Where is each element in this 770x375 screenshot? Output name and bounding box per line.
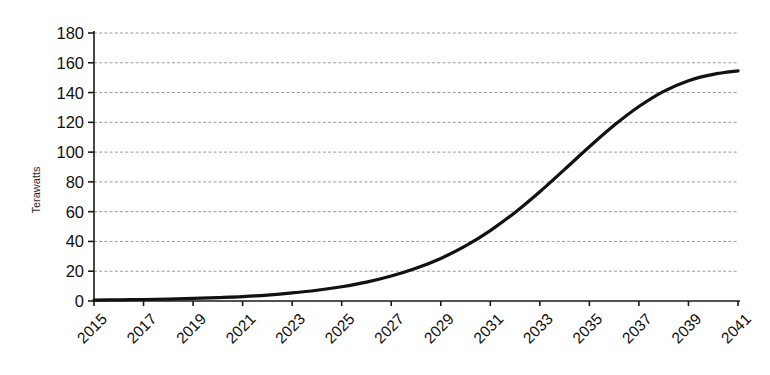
- chart-canvas: 020406080100120140160180 201520172019202…: [0, 0, 770, 375]
- y-tick-label: 180: [56, 24, 84, 42]
- y-tick-label: 0: [75, 292, 84, 310]
- y-tick-label: 80: [66, 173, 84, 191]
- y-axis-title: Terawatts: [30, 166, 42, 214]
- y-tick-label: 120: [56, 113, 84, 131]
- y-tick-label: 60: [66, 203, 84, 221]
- y-tick-label: 160: [56, 54, 84, 72]
- y-tick-label: 20: [66, 262, 84, 280]
- y-tick-label: 140: [56, 84, 84, 102]
- chart-background: [0, 0, 770, 375]
- y-tick-label: 40: [66, 232, 84, 250]
- line-chart-figure: 020406080100120140160180 201520172019202…: [0, 0, 770, 375]
- y-tick-label: 100: [56, 143, 84, 161]
